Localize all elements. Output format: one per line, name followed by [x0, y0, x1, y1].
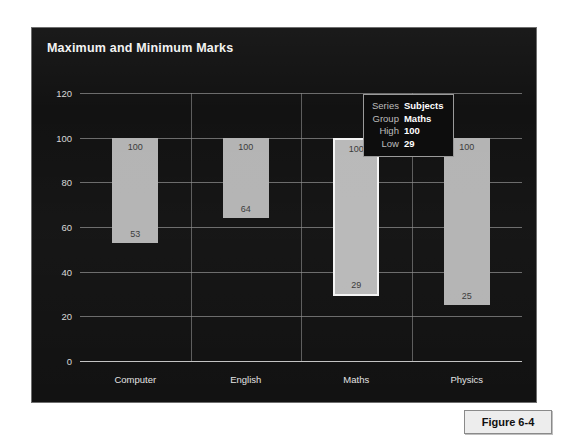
x-axis-label-computer: Computer	[114, 374, 156, 385]
tooltip-row: Low29	[372, 138, 444, 151]
bar-low-value-label: 25	[444, 291, 490, 301]
x-axis-label-maths: Maths	[343, 374, 369, 385]
tooltip-table: SeriesSubjectsGroupMathsHigh100Low29	[372, 100, 444, 150]
bar-physics[interactable]: 10025	[444, 138, 490, 306]
tooltip-row: SeriesSubjects	[372, 100, 444, 113]
x-axis-label-english: English	[230, 374, 261, 385]
figure-caption: Figure 6-4	[464, 410, 552, 434]
tooltip-row: High100	[372, 125, 444, 138]
tooltip-row-value: Subjects	[404, 100, 444, 113]
bar-english[interactable]: 10064	[223, 138, 269, 218]
tooltip-row-value: 29	[404, 138, 444, 151]
bar-high-value-label: 100	[223, 142, 269, 152]
chart-panel: Maximum and Minimum Marks 12010080604020…	[31, 27, 537, 403]
bar-computer[interactable]: 10053	[112, 138, 158, 243]
chart-tooltip: SeriesSubjectsGroupMathsHigh100Low29	[363, 94, 454, 157]
gridline-y-0	[80, 361, 522, 362]
y-axis-tick-label: 40	[61, 266, 72, 277]
tooltip-row: GroupMaths	[372, 113, 444, 126]
y-axis-tick-label: 60	[61, 222, 72, 233]
category-separator	[301, 93, 302, 361]
tooltip-row-label: High	[372, 125, 404, 138]
bar-high-value-label: 100	[112, 142, 158, 152]
bar-low-value-label: 64	[223, 204, 269, 214]
y-axis-tick-label: 20	[61, 311, 72, 322]
tooltip-row-label: Low	[372, 138, 404, 151]
tooltip-row-label: Group	[372, 113, 404, 126]
tooltip-row-label: Series	[372, 100, 404, 113]
bar-maths[interactable]: 10029	[333, 138, 379, 297]
bar-low-value-label: 53	[112, 229, 158, 239]
bar-low-value-label: 29	[335, 280, 377, 290]
category-separator	[191, 93, 192, 361]
y-axis-tick-label: 120	[56, 88, 72, 99]
y-axis-tick-label: 0	[67, 356, 72, 367]
chart-title: Maximum and Minimum Marks	[47, 41, 233, 55]
tooltip-row-value: Maths	[404, 113, 444, 126]
y-axis-tick-label: 100	[56, 132, 72, 143]
tooltip-row-value: 100	[404, 125, 444, 138]
x-axis-label-physics: Physics	[450, 374, 483, 385]
y-axis-tick-label: 80	[61, 177, 72, 188]
plot-area: 12010080604020010053Computer10064English…	[80, 93, 522, 361]
